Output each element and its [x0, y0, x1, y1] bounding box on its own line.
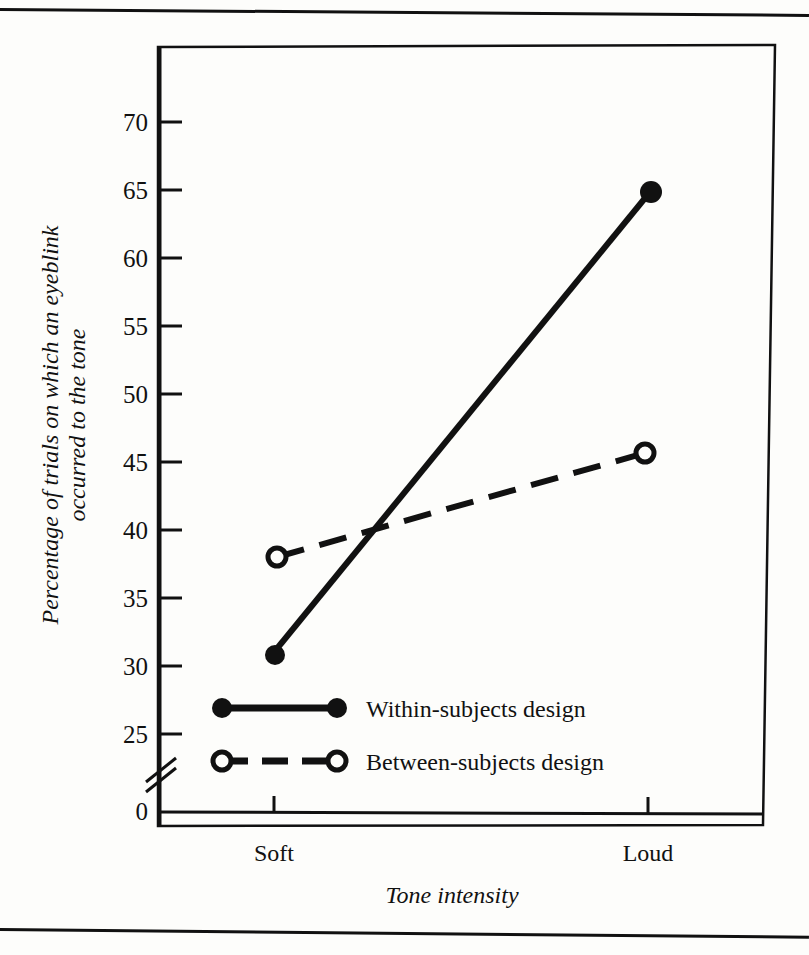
x-tick-label-soft: Soft: [254, 840, 294, 866]
series-between-subjects: [268, 444, 654, 566]
legend-marker-filled-circle-right: [327, 698, 347, 718]
x-axis-baseline: [160, 812, 763, 814]
x-axis-title: Tone intensity: [385, 882, 518, 908]
y-tick-label-50: 50: [123, 381, 148, 408]
data-point-between-soft: [268, 548, 286, 566]
legend-marker-open-circle-left: [213, 752, 231, 770]
y-tick-label-55: 55: [123, 313, 148, 340]
series-between-subjects-line: [277, 453, 645, 557]
y-tick-label-25: 25: [123, 721, 148, 748]
figure-page: 70 65 60 55 50 45 40 35 30 25 0 Percenta…: [0, 0, 809, 955]
y-axis-title-line2: occurred to the tone: [64, 328, 90, 521]
series-within-subjects-line: [275, 192, 650, 651]
legend-label-between-subjects: Between-subjects design: [366, 749, 604, 775]
y-axis-title-line1: Percentage of trials on which an eyeblin…: [37, 225, 63, 625]
legend-item-between-subjects: Between-subjects design: [213, 749, 604, 775]
y-tick-label-35: 35: [123, 585, 148, 612]
y-tick-label-60: 60: [123, 245, 148, 272]
legend-item-within-subjects: Within-subjects design: [212, 696, 586, 722]
line-chart: 70 65 60 55 50 45 40 35 30 25 0 Percenta…: [0, 0, 809, 955]
data-point-within-soft: [265, 645, 285, 665]
chart-legend: Within-subjects design Between-subjects …: [212, 696, 604, 775]
y-axis-ticks: [160, 122, 182, 734]
legend-marker-open-circle-right: [328, 752, 346, 770]
y-tick-label-30: 30: [123, 653, 148, 680]
data-point-within-loud: [640, 181, 662, 203]
y-tick-label-45: 45: [123, 449, 148, 476]
y-tick-label-70: 70: [123, 109, 148, 136]
y-tick-label-0: 0: [136, 798, 149, 825]
y-tick-label-65: 65: [123, 177, 148, 204]
x-tick-label-loud: Loud: [623, 840, 674, 866]
data-point-between-loud: [636, 444, 654, 462]
y-axis-title: Percentage of trials on which an eyeblin…: [37, 225, 90, 625]
legend-label-within-subjects: Within-subjects design: [366, 696, 586, 722]
legend-marker-filled-circle-left: [212, 698, 232, 718]
series-within-subjects: [265, 181, 662, 665]
y-tick-label-40: 40: [123, 517, 148, 544]
